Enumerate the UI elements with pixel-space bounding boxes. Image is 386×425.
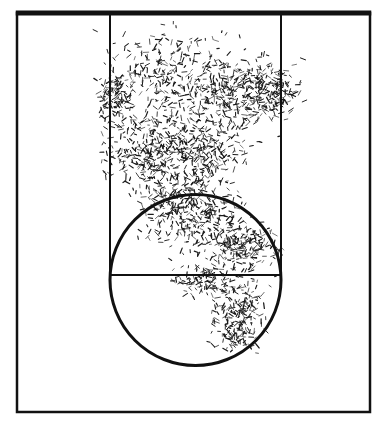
shot-mark bbox=[278, 136, 280, 137]
shot-mark bbox=[260, 69, 262, 70]
shot-mark bbox=[264, 239, 265, 242]
shot-mark bbox=[243, 95, 244, 97]
shot-mark bbox=[218, 131, 219, 135]
shot-mark bbox=[236, 301, 237, 303]
shot-mark bbox=[161, 60, 165, 61]
shot-mark bbox=[228, 260, 231, 261]
shot-mark bbox=[115, 88, 119, 89]
shot-mark bbox=[132, 160, 133, 162]
shot-mark bbox=[151, 144, 154, 145]
shot-mark bbox=[237, 312, 239, 313]
shot-mark bbox=[259, 109, 261, 110]
shot-mark bbox=[250, 146, 254, 147]
shot-mark bbox=[279, 73, 280, 75]
shot-mark bbox=[176, 277, 177, 282]
shot-mark bbox=[234, 82, 235, 84]
shot-mark bbox=[190, 151, 191, 153]
shot-mark bbox=[207, 204, 212, 205]
shot-mark bbox=[141, 164, 144, 165]
shot-mark bbox=[171, 78, 172, 80]
shot-mark bbox=[219, 73, 220, 77]
shot-mark bbox=[223, 196, 228, 197]
shot-mark bbox=[205, 103, 210, 104]
shot-mark bbox=[222, 31, 223, 33]
shot-mark bbox=[138, 236, 139, 239]
shot-mark bbox=[193, 172, 194, 176]
shot-mark bbox=[173, 189, 175, 190]
shot-mark bbox=[142, 174, 144, 175]
shot-mark bbox=[158, 122, 162, 123]
shot-mark bbox=[224, 245, 225, 246]
shot-mark bbox=[201, 113, 204, 114]
shot-mark bbox=[117, 112, 118, 113]
shot-mark bbox=[217, 287, 218, 290]
shot-mark bbox=[288, 94, 293, 95]
shot-mark bbox=[230, 239, 231, 243]
shot-mark bbox=[226, 271, 227, 274]
shot-mark bbox=[198, 79, 199, 81]
shot-mark bbox=[211, 162, 212, 164]
shot-mark bbox=[242, 202, 243, 204]
shot-mark bbox=[123, 161, 124, 164]
shot-chart-figure bbox=[0, 0, 386, 425]
shot-mark bbox=[191, 215, 193, 216]
shot-mark bbox=[223, 101, 224, 106]
shot-mark bbox=[198, 282, 203, 283]
shot-mark bbox=[193, 204, 196, 205]
shot-mark bbox=[216, 206, 218, 207]
shot-mark bbox=[215, 82, 216, 86]
shot-mark bbox=[180, 160, 185, 161]
shot-mark bbox=[258, 242, 262, 243]
shot-mark bbox=[142, 162, 144, 163]
shot-mark bbox=[245, 107, 250, 108]
shot-mark bbox=[148, 218, 152, 219]
shot-mark bbox=[142, 80, 143, 85]
shot-mark bbox=[100, 101, 103, 102]
shot-mark bbox=[266, 106, 267, 108]
shot-mark bbox=[207, 341, 210, 342]
shot-mark bbox=[239, 277, 242, 278]
shot-mark bbox=[163, 106, 166, 107]
shot-mark bbox=[241, 60, 246, 61]
shot-mark bbox=[170, 195, 172, 196]
shot-mark bbox=[209, 167, 210, 169]
shot-mark bbox=[186, 188, 187, 190]
shot-mark bbox=[213, 80, 214, 84]
shot-mark bbox=[213, 286, 216, 287]
shot-mark bbox=[250, 248, 251, 250]
shot-mark bbox=[101, 107, 102, 110]
shot-mark bbox=[275, 276, 277, 277]
shot-mark bbox=[121, 134, 122, 139]
shot-mark bbox=[185, 184, 186, 186]
shot-mark bbox=[170, 183, 172, 184]
shot-mark bbox=[261, 93, 266, 94]
shot-mark bbox=[134, 134, 136, 135]
shot-mark bbox=[236, 276, 238, 277]
shot-mark bbox=[192, 169, 196, 170]
shot-mark bbox=[162, 34, 165, 35]
shot-mark bbox=[248, 253, 250, 254]
shot-mark bbox=[196, 213, 197, 215]
shot-mark bbox=[108, 93, 109, 95]
shot-mark bbox=[243, 301, 246, 302]
shot-mark bbox=[124, 47, 125, 50]
shot-mark bbox=[103, 96, 105, 97]
shot-mark bbox=[241, 102, 243, 103]
shot-mark bbox=[224, 216, 227, 217]
shot-mark bbox=[214, 269, 218, 270]
shot-mark bbox=[228, 155, 230, 156]
shot-mark bbox=[229, 328, 231, 329]
shot-mark bbox=[146, 109, 147, 112]
shot-mark bbox=[244, 317, 245, 320]
shot-mark bbox=[183, 222, 185, 223]
shot-mark bbox=[149, 39, 150, 44]
shot-mark bbox=[183, 206, 184, 211]
shot-mark bbox=[215, 88, 216, 91]
shot-mark bbox=[184, 108, 185, 111]
shot-mark bbox=[195, 92, 196, 97]
shot-mark bbox=[162, 80, 164, 81]
shot-mark bbox=[237, 133, 238, 136]
shot-mark bbox=[167, 178, 168, 180]
shot-mark bbox=[186, 94, 189, 95]
shot-mark bbox=[159, 52, 161, 53]
